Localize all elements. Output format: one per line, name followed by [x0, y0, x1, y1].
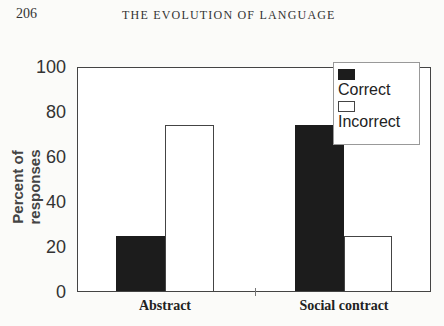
x-category-abstract: Abstract [105, 298, 225, 314]
page-number: 206 [16, 6, 37, 22]
running-head: THE EVOLUTION OF LANGUAGE [122, 8, 336, 23]
bar-social-contract-correct [295, 125, 344, 292]
legend-swatch-correct [338, 69, 355, 80]
y-tick-40: 40 [26, 192, 66, 212]
legend-swatch-incorrect [338, 101, 355, 112]
bar-social-contract-incorrect [344, 236, 392, 292]
y-tick-20: 20 [26, 237, 66, 257]
x-category-social-contract: Social contract [274, 298, 414, 314]
legend: Correct Incorrect [333, 62, 420, 145]
x-axis-mid-tick [255, 288, 256, 296]
y-axis-label: Percent of responses [9, 117, 27, 257]
legend-label-correct: Correct [338, 80, 419, 99]
y-tick-100: 100 [26, 57, 66, 77]
y-tick-60: 60 [26, 147, 66, 167]
bar-abstract-correct [116, 236, 165, 292]
legend-label-incorrect: Incorrect [338, 112, 419, 131]
y-tick-0: 0 [26, 282, 66, 302]
y-tick-80: 80 [26, 102, 66, 122]
bar-abstract-incorrect [165, 125, 214, 292]
